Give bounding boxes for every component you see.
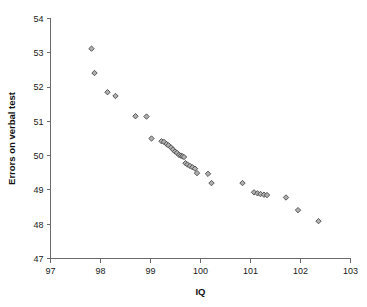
y-axis-title: Errors on verbal test <box>6 91 17 185</box>
data-point <box>283 195 288 200</box>
y-tick-label: 52 <box>33 82 43 92</box>
data-point <box>89 46 94 51</box>
y-tick-label: 51 <box>33 117 43 127</box>
y-tick-label: 49 <box>33 185 43 195</box>
y-tick-label: 53 <box>33 48 43 58</box>
data-point <box>205 171 210 176</box>
plot-area: 4748495051525354 979899100101102103 IQ E… <box>0 0 367 307</box>
y-axis: 4748495051525354 <box>33 14 50 264</box>
data-point <box>144 114 149 119</box>
x-tick-label: 98 <box>95 266 105 276</box>
x-tick-label: 103 <box>343 266 358 276</box>
data-points <box>89 46 321 224</box>
x-tick-label: 99 <box>145 266 155 276</box>
data-point <box>240 180 245 185</box>
data-point <box>295 207 300 212</box>
data-point <box>133 114 138 119</box>
data-point <box>113 93 118 98</box>
data-point <box>92 70 97 75</box>
y-tick-label: 54 <box>33 14 43 24</box>
x-axis-title: IQ <box>195 286 205 297</box>
y-tick-label: 48 <box>33 220 43 230</box>
x-tick-label: 102 <box>293 266 308 276</box>
x-tick-label: 97 <box>45 266 55 276</box>
data-point <box>149 136 154 141</box>
x-tick-label: 100 <box>193 266 208 276</box>
x-tick-label: 101 <box>243 266 258 276</box>
scatter-chart: 4748495051525354 979899100101102103 IQ E… <box>0 0 367 307</box>
x-axis: 979899100101102103 <box>45 259 358 276</box>
data-point <box>316 218 321 223</box>
y-tick-label: 50 <box>33 151 43 161</box>
data-point <box>209 180 214 185</box>
y-tick-label: 47 <box>33 254 43 264</box>
data-point <box>105 90 110 95</box>
